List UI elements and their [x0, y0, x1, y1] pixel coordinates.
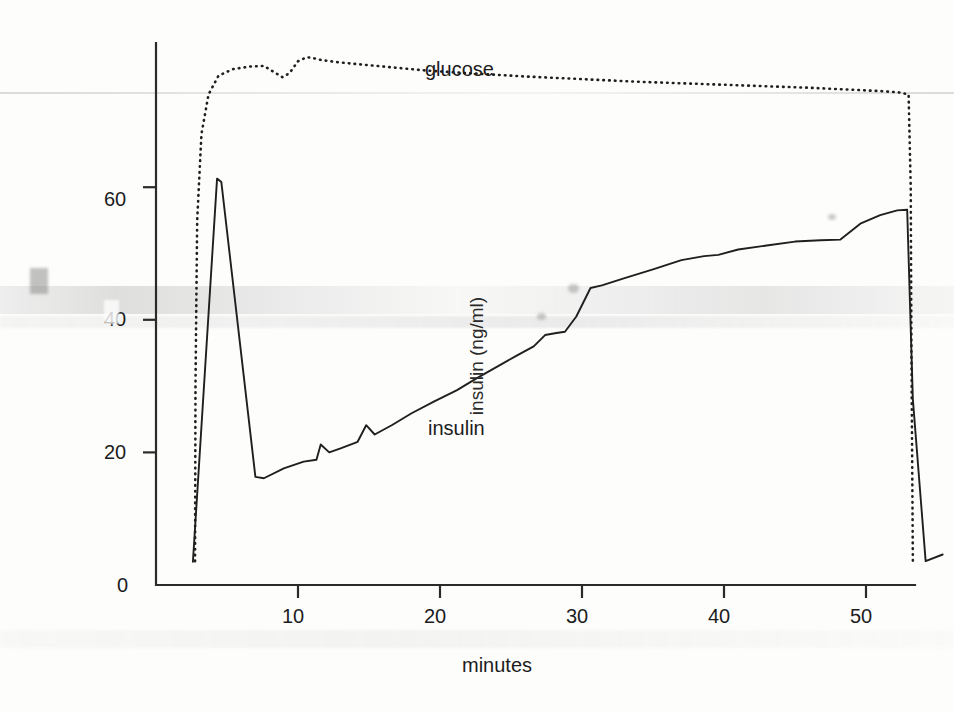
x-axis-title: minutes [462, 654, 532, 677]
series-line-insulin [193, 179, 943, 562]
y-tick-label-40: 40 [104, 308, 126, 331]
x-tick-label-20: 20 [424, 605, 446, 628]
x-tick-label-40: 40 [708, 605, 730, 628]
x-tick-label-10: 10 [282, 605, 304, 628]
y-axis-title-text: insulin (ng/ml) [466, 297, 488, 415]
y-tick-label-0: 0 [117, 574, 128, 597]
x-tick-label-30: 30 [566, 605, 588, 628]
y-tick-label-20: 20 [104, 441, 126, 464]
series-label-glucose: glucose [425, 58, 494, 81]
series-line-glucose [195, 57, 913, 561]
y-tick-label-60: 60 [104, 188, 126, 211]
series-label-insulin: insulin [428, 417, 485, 440]
x-tick-label-50: 50 [850, 605, 872, 628]
chart-figure: 60 40 20 0 10 20 30 40 50 minutes insuli… [0, 0, 954, 712]
axis-lines [156, 43, 915, 585]
